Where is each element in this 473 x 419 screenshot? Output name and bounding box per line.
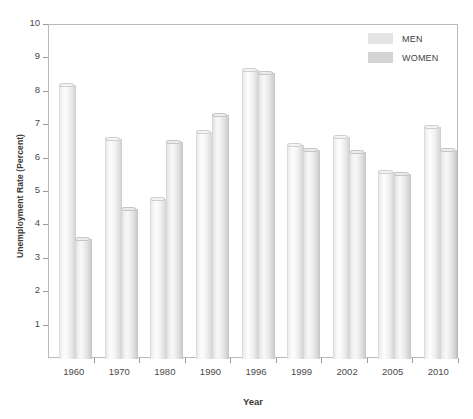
bar-body (287, 145, 304, 359)
x-axis-label-1970: 1970 (96, 366, 142, 377)
y-tick: 10 (0, 24, 48, 25)
y-tick: 6 (0, 158, 48, 159)
x-tick-mark (139, 358, 140, 363)
bar-body (212, 115, 229, 359)
bar-cap (166, 140, 181, 144)
bar-cap (196, 130, 211, 134)
legend-swatch-women-icon (368, 52, 393, 63)
legend-label-men: MEN (402, 34, 423, 44)
bar-men-2005 (378, 172, 393, 359)
chart-legend: MEN WOMEN (368, 31, 454, 69)
bar-women-2002 (349, 152, 364, 359)
bar-women-1996 (258, 73, 273, 359)
y-tick: 9 (0, 57, 48, 58)
bar-body (333, 137, 350, 359)
bar-body (440, 150, 457, 359)
bar-women-1980 (166, 142, 181, 359)
bar-cap (105, 137, 120, 141)
x-tick-mark (367, 358, 368, 363)
x-axis-label-1996: 1996 (233, 366, 279, 377)
bar-cap (150, 197, 165, 201)
y-axis-title: Unemployment Rate (Percent) (15, 106, 25, 286)
bar-cap (258, 71, 273, 75)
y-tick-label: 6 (35, 151, 40, 162)
y-tick: 4 (0, 224, 48, 225)
bar-cap (59, 83, 74, 87)
unemployment-bar-chart: Unemployment Rate (Percent) 10987654321 … (0, 0, 473, 419)
bar-cap (75, 237, 90, 241)
bar-body (196, 132, 213, 359)
legend-item-men: MEN (368, 31, 454, 46)
bar-body (394, 174, 411, 359)
bar-body (349, 152, 366, 359)
legend-swatch-men-icon (368, 33, 393, 44)
bar-cap (287, 143, 302, 147)
bar-body (424, 127, 441, 359)
y-tick-label: 4 (35, 217, 40, 228)
y-tick-label: 7 (35, 117, 40, 128)
legend-label-women: WOMEN (402, 53, 439, 63)
bar-men-1996 (242, 70, 257, 359)
bar-body (258, 73, 275, 359)
bar-body (378, 172, 395, 359)
bar-cap (303, 148, 318, 152)
x-tick-mark (230, 358, 231, 363)
bar-cap (378, 170, 393, 174)
x-tick-mark (458, 358, 459, 363)
y-tick-label: 3 (35, 251, 40, 262)
x-tick-mark (185, 358, 186, 363)
x-axis-label-1980: 1980 (142, 366, 188, 377)
bar-cap (212, 113, 227, 117)
x-axis-title: Year (48, 396, 458, 407)
bar-cap (349, 150, 364, 154)
bar-body (303, 150, 320, 359)
y-tick: 8 (0, 91, 48, 92)
y-tick: 3 (0, 258, 48, 259)
y-tick-label: 5 (35, 184, 40, 195)
y-tick-label: 8 (35, 84, 40, 95)
bar-cap (121, 207, 136, 211)
bar-cap (424, 125, 439, 129)
bar-men-1970 (105, 139, 120, 359)
y-tick: 7 (0, 124, 48, 125)
bar-men-1999 (287, 145, 302, 359)
x-axis-label-1990: 1990 (187, 366, 233, 377)
plot-area (48, 24, 458, 358)
bar-body (121, 209, 138, 359)
bar-women-1990 (212, 115, 227, 359)
x-tick-mark (276, 358, 277, 363)
bar-body (166, 142, 183, 359)
x-axis-label-2010: 2010 (415, 366, 461, 377)
bar-women-1970 (121, 209, 136, 359)
bar-women-2005 (394, 174, 409, 359)
y-tick: 1 (0, 325, 48, 326)
bar-men-1980 (150, 199, 165, 359)
bar-body (75, 239, 92, 359)
bar-cap (394, 172, 409, 176)
bar-men-2010 (424, 127, 439, 359)
x-tick-mark (94, 358, 95, 363)
y-tick-label: 2 (35, 284, 40, 295)
bar-women-1960 (75, 239, 90, 359)
legend-item-women: WOMEN (368, 50, 454, 65)
x-axis-label-1999: 1999 (279, 366, 325, 377)
bar-men-1960 (59, 85, 74, 359)
y-tick-label: 9 (35, 50, 40, 61)
bar-body (59, 85, 76, 359)
x-axis-label-1960: 1960 (51, 366, 97, 377)
bar-men-2002 (333, 137, 348, 359)
bar-body (150, 199, 167, 359)
bar-women-2010 (440, 150, 455, 359)
x-axis-label-2002: 2002 (324, 366, 370, 377)
y-tick: 5 (0, 191, 48, 192)
x-tick-mark (321, 358, 322, 363)
y-tick-label: 10 (29, 17, 40, 28)
bar-women-1999 (303, 150, 318, 359)
bar-cap (333, 135, 348, 139)
bar-body (242, 70, 259, 359)
bar-body (105, 139, 122, 359)
bar-cap (440, 148, 455, 152)
bar-cap (242, 68, 257, 72)
x-tick-mark (412, 358, 413, 363)
bar-men-1990 (196, 132, 211, 359)
